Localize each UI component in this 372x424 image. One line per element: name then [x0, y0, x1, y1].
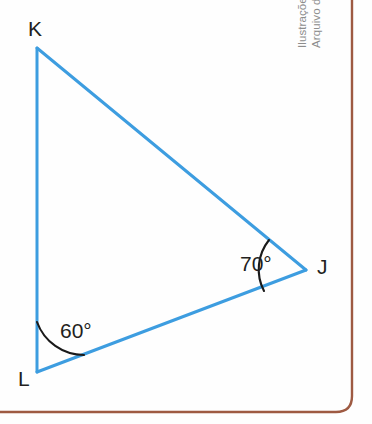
vertex-label-l: L: [18, 368, 30, 389]
triangle-side-kj: [37, 48, 306, 270]
angle-measure-label-j: 70°: [240, 253, 272, 274]
angle-measure-label-l: 60°: [60, 320, 92, 341]
vertex-label-j: J: [317, 256, 328, 277]
image-credit-line-2: Arquivo da editora: [310, 0, 324, 48]
image-credit: Ilustrações: Banco de imagens/ Arquivo d…: [296, 0, 336, 48]
image-credit-line-1: Ilustrações: Banco de imagens/: [296, 0, 310, 48]
triangle-diagram: [0, 0, 372, 424]
figure-container: K L J 60° 70° Ilustrações: Banco de imag…: [0, 0, 372, 424]
vertex-label-k: K: [28, 18, 42, 39]
